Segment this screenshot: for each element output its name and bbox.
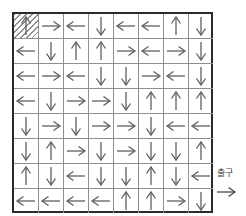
arrow-left-icon: [14, 89, 38, 113]
arrow-up-icon: [139, 164, 163, 188]
grid-cell: [164, 89, 189, 114]
exit-arrow-icon: [214, 180, 238, 208]
arrow-down-icon: [14, 114, 38, 138]
grid-cell: [64, 89, 89, 114]
arrow-left-icon: [39, 189, 63, 213]
arrow-up-icon: [89, 39, 113, 63]
arrow-left-icon: [189, 114, 213, 138]
grid-cell: [39, 14, 64, 39]
arrow-up-icon: [164, 14, 188, 38]
arrow-down-icon: [89, 164, 113, 188]
arrow-left-icon: [164, 64, 188, 88]
grid-cell: [139, 164, 164, 189]
grid-cell: [189, 139, 213, 164]
arrow-left-icon: [64, 64, 88, 88]
arrow-down-icon: [114, 164, 138, 188]
start-cell-hatched: [14, 14, 39, 39]
grid-cell: [39, 189, 64, 213]
grid-cell: [114, 164, 139, 189]
grid-cell: [64, 189, 89, 213]
arrow-up-icon: [139, 89, 163, 113]
arrow-down-icon: [189, 189, 213, 213]
arrow-down-icon: [189, 14, 213, 38]
grid-cell: [114, 89, 139, 114]
arrow-right-icon: [39, 114, 63, 138]
arrow-down-icon: [189, 39, 213, 63]
grid-cell: [14, 139, 39, 164]
grid-cell: [14, 114, 39, 139]
arrow-right-icon: [89, 89, 113, 113]
arrow-up-icon: [189, 139, 213, 163]
arrow-down-icon: [139, 114, 163, 138]
arrow-right-icon: [39, 64, 63, 88]
grid-cell: [164, 164, 189, 189]
arrow-left-icon: [164, 114, 188, 138]
grid-cell: [64, 164, 89, 189]
grid-cell: [39, 164, 64, 189]
arrow-right-icon: [214, 180, 238, 204]
grid-cell: [89, 114, 114, 139]
arrow-left-icon: [14, 189, 38, 213]
grid-cell: [189, 64, 213, 89]
grid-cell: [64, 64, 89, 89]
arrow-down-icon: [64, 114, 88, 138]
arrow-down-icon: [89, 64, 113, 88]
grid-cell: [114, 14, 139, 39]
arrow-left-icon: [14, 64, 38, 88]
grid-cell: [114, 139, 139, 164]
grid-cell: [164, 114, 189, 139]
arrow-down-icon: [139, 139, 163, 163]
arrow-up-icon: [14, 14, 38, 38]
exit-label: 출구: [217, 168, 233, 178]
arrow-right-icon: [164, 39, 188, 63]
arrow-grid: [12, 12, 213, 213]
grid-cell: [89, 14, 114, 39]
grid-cell: [39, 39, 64, 64]
grid-cell: [189, 189, 213, 213]
arrow-up-icon: [164, 89, 188, 113]
grid-cell: [39, 114, 64, 139]
arrow-down-icon: [89, 139, 113, 163]
arrow-up-icon: [39, 139, 63, 163]
grid-cell: [114, 39, 139, 64]
grid-cell: [189, 89, 213, 114]
arrow-right-icon: [64, 139, 88, 163]
arrow-left-icon: [139, 14, 163, 38]
arrow-down-icon: [89, 14, 113, 38]
grid-cell: [189, 14, 213, 39]
grid-cell: [139, 89, 164, 114]
grid-cell: [189, 39, 213, 64]
arrow-down-icon: [189, 64, 213, 88]
grid-cell: [139, 114, 164, 139]
grid-cell: [39, 89, 64, 114]
grid-cell: [189, 114, 213, 139]
grid-cell: [139, 14, 164, 39]
arrow-down-icon: [39, 39, 63, 63]
arrow-down-icon: [39, 164, 63, 188]
arrow-right-icon: [114, 114, 138, 138]
grid-cell: [14, 64, 39, 89]
grid-cell: [14, 39, 39, 64]
grid-cell: [64, 39, 89, 64]
arrow-right-icon: [89, 114, 113, 138]
arrow-right-icon: [164, 189, 188, 213]
grid-cell: [189, 164, 213, 189]
grid-cell: [14, 189, 39, 213]
grid-cell: [164, 14, 189, 39]
grid-cell: [39, 64, 64, 89]
arrow-right-icon: [139, 64, 163, 88]
arrow-left-icon: [64, 164, 88, 188]
arrow-up-icon: [64, 39, 88, 63]
grid-cell: [139, 189, 164, 213]
arrow-left-icon: [189, 164, 213, 188]
grid-cell: [164, 39, 189, 64]
grid-cell: [139, 64, 164, 89]
arrow-left-icon: [64, 189, 88, 213]
arrow-right-icon: [114, 139, 138, 163]
grid-cell: [114, 64, 139, 89]
arrow-down-icon: [164, 164, 188, 188]
grid-cell: [64, 139, 89, 164]
grid-cell: [114, 189, 139, 213]
grid-cell: [14, 164, 39, 189]
grid-cell: [139, 139, 164, 164]
